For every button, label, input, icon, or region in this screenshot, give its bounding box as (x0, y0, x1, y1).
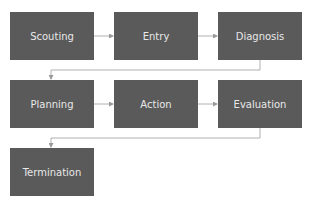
node-label: Action (140, 99, 171, 110)
arrow-diagnosis-planning (51, 60, 260, 79)
node-label: Planning (30, 99, 73, 110)
node-scouting: Scouting (10, 12, 94, 60)
node-label: Evaluation (234, 99, 287, 110)
node-planning: Planning (10, 80, 94, 128)
node-label: Diagnosis (236, 31, 285, 42)
node-label: Scouting (30, 31, 74, 42)
node-action: Action (114, 80, 198, 128)
node-label: Entry (143, 31, 170, 42)
node-evaluation: Evaluation (218, 80, 302, 128)
arrow-evaluation-termination (51, 128, 260, 147)
node-termination: Termination (10, 148, 94, 196)
node-entry: Entry (114, 12, 198, 60)
node-diagnosis: Diagnosis (218, 12, 302, 60)
node-label: Termination (23, 167, 82, 178)
